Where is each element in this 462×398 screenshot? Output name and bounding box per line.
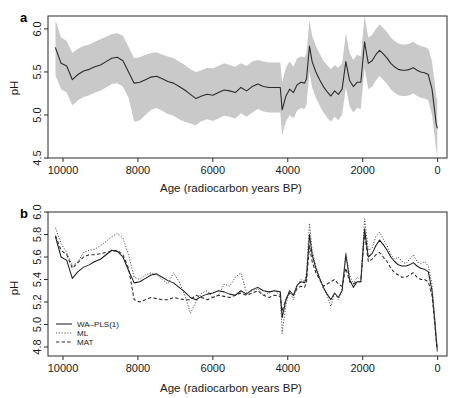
x-tick-label: 0 — [435, 362, 441, 374]
x-tick-label: 6000 — [201, 362, 225, 374]
x-tick-label: 10000 — [48, 164, 79, 176]
x-tick-label: 8000 — [126, 362, 150, 374]
legend-b: WA–PLS(1)MLMAT — [56, 320, 119, 347]
x-tick-label: 4000 — [276, 164, 300, 176]
y-tick-label: 5.8 — [31, 227, 43, 242]
x-tick-label: 6000 — [201, 164, 225, 176]
legend-label-ml: ML — [77, 329, 89, 338]
x-axis-title-b: Age (radiocarbon years BP) — [160, 382, 302, 394]
series-group-b — [55, 219, 437, 352]
y-tick-label: 5.0 — [31, 317, 43, 332]
series-line-wa-pls-1- — [55, 229, 437, 349]
x-tick-label: 4000 — [276, 362, 300, 374]
legend-label-wa-pls-1-: WA–PLS(1) — [77, 320, 119, 329]
y-axis-title-b: pH — [8, 281, 20, 296]
panel-b: b 10000800060004000200004.85.05.25.45.65… — [0, 196, 462, 398]
y-tick-label: 5.5 — [31, 64, 43, 79]
panel-b-letter: b — [20, 206, 28, 221]
x-axis-title-a: Age (radiocarbon years BP) — [160, 182, 302, 194]
plot-frame — [48, 212, 447, 356]
x-tick-label: 2000 — [350, 362, 374, 374]
y-tick-label: 6.0 — [31, 204, 43, 219]
panel-a-letter: a — [20, 10, 28, 25]
legend-label-mat: MAT — [77, 338, 93, 347]
panel-a-svg: a 10000800060004000200004.55.05.56.0 Age… — [0, 0, 462, 199]
y-axis-title-a: pH — [8, 81, 20, 96]
figure-container: a 10000800060004000200004.55.05.56.0 Age… — [0, 0, 462, 398]
axes-b: 10000800060004000200004.85.05.25.45.65.8… — [31, 204, 447, 374]
panel-a: a 10000800060004000200004.55.05.56.0 Age… — [0, 0, 462, 199]
y-tick-label: 4.5 — [31, 150, 43, 165]
y-tick-label: 5.2 — [31, 294, 43, 309]
x-tick-label: 10000 — [48, 362, 79, 374]
y-tick-label: 5.0 — [31, 107, 43, 122]
x-tick-label: 8000 — [126, 164, 150, 176]
x-tick-label: 2000 — [350, 164, 374, 176]
y-tick-label: 5.6 — [31, 249, 43, 264]
x-tick-label: 0 — [435, 164, 441, 176]
y-tick-label: 4.8 — [31, 339, 43, 354]
y-tick-label: 5.4 — [31, 272, 43, 287]
uncertainty-band-a — [55, 15, 437, 155]
y-tick-label: 6.0 — [31, 21, 43, 36]
panel-b-svg: b 10000800060004000200004.85.05.25.45.65… — [0, 196, 462, 398]
confidence-band — [55, 15, 437, 155]
